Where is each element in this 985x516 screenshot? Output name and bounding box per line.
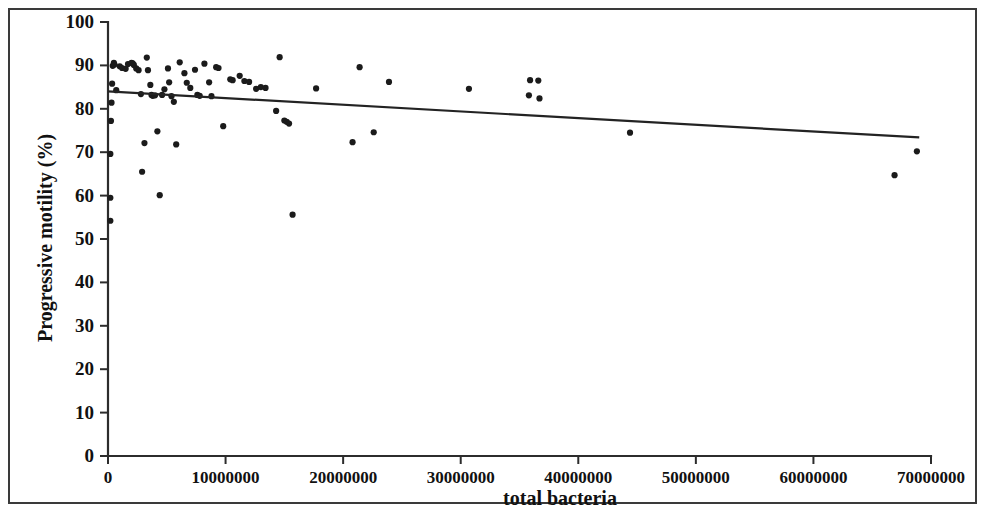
data-point [139, 169, 145, 175]
data-point [145, 67, 151, 73]
data-point [107, 218, 113, 224]
data-point [108, 100, 114, 106]
data-point [107, 151, 113, 157]
y-axis-title: Progressive motility (%) [34, 134, 57, 342]
data-point [161, 86, 167, 92]
y-tick-label: 30 [75, 315, 94, 336]
data-point [157, 192, 163, 198]
data-point [111, 61, 117, 67]
x-tick-label: 70000000 [897, 468, 965, 487]
data-point [536, 95, 542, 101]
x-tick-label: 20000000 [309, 468, 377, 487]
y-tick-label: 100 [66, 11, 95, 32]
data-point [109, 81, 115, 87]
data-point [171, 99, 177, 105]
trend-line [108, 91, 919, 137]
data-point [165, 65, 171, 71]
y-tick-label: 50 [75, 228, 94, 249]
x-tick-label: 60000000 [779, 468, 847, 487]
data-point [166, 79, 172, 85]
data-point [108, 118, 114, 124]
data-point [141, 140, 147, 146]
y-tick-label: 80 [75, 98, 94, 119]
data-point [349, 139, 355, 145]
data-point [187, 85, 193, 91]
data-point [466, 86, 472, 92]
data-point [277, 54, 283, 60]
data-point [192, 67, 198, 73]
data-point [220, 123, 226, 129]
y-tick-label: 0 [85, 445, 95, 466]
data-point [313, 85, 319, 91]
y-tick-label: 60 [75, 185, 94, 206]
data-point [289, 212, 295, 218]
data-point [914, 148, 920, 154]
data-point [237, 73, 243, 79]
data-point [357, 64, 363, 70]
data-point [177, 59, 183, 65]
scatter-chart: 0102030405060708090100 01000000020000000… [0, 0, 985, 516]
data-point [535, 77, 541, 83]
data-point [527, 77, 533, 83]
data-point [181, 70, 187, 76]
data-point [526, 92, 532, 98]
x-axis-title: total bacteria [503, 487, 617, 509]
data-point [627, 130, 633, 136]
x-tick-label: 0 [104, 468, 113, 487]
figure-container: 0102030405060708090100 01000000020000000… [0, 0, 985, 516]
data-point [386, 79, 392, 85]
y-tick-group: 0102030405060708090100 [66, 11, 109, 466]
y-tick-label: 90 [75, 54, 94, 75]
data-point [173, 141, 179, 147]
data-point [215, 65, 221, 71]
data-point [154, 128, 160, 134]
y-tick-label: 10 [75, 402, 94, 423]
data-point [144, 54, 150, 60]
data-point [286, 120, 292, 126]
data-point-group [107, 54, 920, 224]
data-point [184, 80, 190, 86]
y-tick-label: 70 [75, 141, 94, 162]
data-point [891, 172, 897, 178]
data-point [206, 79, 212, 85]
data-point [201, 61, 207, 67]
data-point [262, 85, 268, 91]
y-tick-label: 40 [75, 271, 94, 292]
x-tick-label: 40000000 [544, 468, 612, 487]
data-point [230, 77, 236, 83]
y-tick-label: 20 [75, 358, 94, 379]
x-tick-label: 30000000 [427, 468, 495, 487]
x-tick-group: 0100000002000000030000000400000005000000… [104, 456, 965, 487]
data-point [147, 82, 153, 88]
data-point [273, 108, 279, 114]
data-point [107, 195, 113, 201]
x-tick-label: 50000000 [662, 468, 730, 487]
x-tick-label: 10000000 [192, 468, 260, 487]
data-point [371, 129, 377, 135]
data-point [246, 79, 252, 85]
data-point [135, 67, 141, 73]
